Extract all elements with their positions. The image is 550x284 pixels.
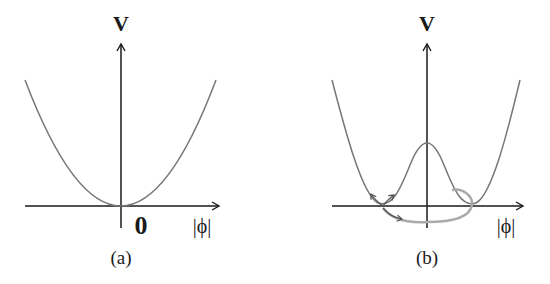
fork-arrow-right <box>383 195 394 206</box>
panel-b-y-axis-label: V <box>419 11 435 37</box>
panel-a-origin-label: 0 <box>135 211 148 241</box>
panel-b <box>332 44 523 228</box>
panel-a-x-axis-label: |ϕ| <box>193 215 212 238</box>
fork-arrow-left <box>371 194 383 206</box>
panel-b-x-axis-label: |ϕ| <box>497 215 516 238</box>
double-well-curve <box>332 80 520 204</box>
panel-b-caption: (b) <box>416 247 438 269</box>
panel-a <box>25 44 219 228</box>
panel-a-y-axis-label: V <box>113 11 129 37</box>
diagram-canvas <box>0 0 550 284</box>
panel-a-caption: (a) <box>110 247 131 269</box>
